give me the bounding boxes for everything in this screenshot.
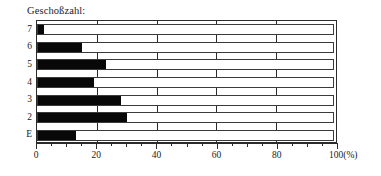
bar-fill bbox=[38, 43, 82, 52]
y-tick-label: 6 bbox=[2, 41, 32, 51]
y-tick-label: 5 bbox=[2, 59, 32, 69]
x-tick-30 bbox=[126, 143, 127, 147]
x-tick-5 bbox=[51, 143, 52, 146]
bar-track bbox=[37, 42, 334, 53]
bar-track bbox=[37, 77, 334, 88]
bar-fill bbox=[38, 96, 121, 105]
bar-row bbox=[37, 130, 336, 141]
x-tick-85 bbox=[292, 143, 293, 146]
bar-row bbox=[37, 59, 336, 70]
bar-row bbox=[37, 42, 336, 53]
x-tick-10 bbox=[66, 143, 67, 147]
x-tick-55 bbox=[202, 143, 203, 146]
bar-track bbox=[37, 59, 334, 70]
bar-row bbox=[37, 24, 336, 35]
y-tick-label: 7 bbox=[2, 24, 32, 34]
x-tick-95 bbox=[322, 143, 323, 146]
bar-track bbox=[37, 24, 334, 35]
bar-row bbox=[37, 112, 336, 123]
x-tick-label: 60 bbox=[212, 150, 222, 161]
y-tick-label: 3 bbox=[2, 94, 32, 104]
bar-fill bbox=[38, 78, 94, 87]
y-tick-label: 2 bbox=[2, 112, 32, 122]
x-axis-labels: 020406080100(%) bbox=[36, 150, 337, 164]
x-tick-75 bbox=[262, 143, 263, 146]
bar-fill bbox=[38, 131, 76, 140]
bar-track bbox=[37, 130, 334, 141]
y-tick-label: 4 bbox=[2, 77, 32, 87]
x-tick-65 bbox=[232, 143, 233, 146]
x-tick-70 bbox=[247, 143, 248, 147]
x-tick-100 bbox=[337, 143, 338, 149]
x-tick-label: 20 bbox=[91, 150, 101, 161]
x-tick-25 bbox=[111, 143, 112, 146]
chart-title: Geschoßzahl: bbox=[27, 5, 85, 17]
x-tick-50 bbox=[187, 143, 188, 147]
chart-figure: Geschoßzahl: 765432E 020406080100(%) bbox=[0, 0, 381, 176]
x-tick-60 bbox=[217, 143, 218, 149]
x-tick-label: 80 bbox=[272, 150, 282, 161]
x-tick-20 bbox=[96, 143, 97, 149]
x-tick-label: 40 bbox=[152, 150, 162, 161]
bar-row bbox=[37, 77, 336, 88]
y-axis-labels: 765432E bbox=[0, 20, 32, 143]
x-tick-label: 100(%) bbox=[329, 150, 358, 161]
bar-row bbox=[37, 95, 336, 106]
x-tick-35 bbox=[141, 143, 142, 146]
x-tick-label: 0 bbox=[34, 150, 39, 161]
bar-track bbox=[37, 95, 334, 106]
bar-fill bbox=[38, 25, 44, 34]
bar-fill bbox=[38, 60, 106, 69]
x-tick-0 bbox=[36, 143, 37, 149]
x-tick-80 bbox=[277, 143, 278, 149]
bar-rows bbox=[37, 21, 336, 142]
bar-track bbox=[37, 112, 334, 123]
x-tick-45 bbox=[171, 143, 172, 146]
plot-area bbox=[36, 20, 337, 143]
x-tick-15 bbox=[81, 143, 82, 146]
x-tick-40 bbox=[156, 143, 157, 149]
y-tick-label: E bbox=[2, 129, 32, 139]
bar-fill bbox=[38, 113, 127, 122]
x-tick-90 bbox=[307, 143, 308, 147]
